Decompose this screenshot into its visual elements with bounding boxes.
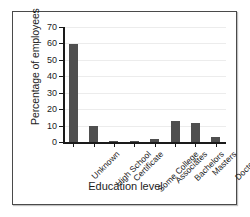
y-axis-line bbox=[63, 27, 65, 143]
bar[interactable] bbox=[89, 126, 98, 142]
gridline bbox=[63, 93, 226, 94]
bar[interactable] bbox=[69, 44, 78, 142]
y-tick-label: 70 bbox=[47, 22, 57, 32]
y-tick-label: 30 bbox=[47, 88, 57, 98]
bar[interactable] bbox=[171, 121, 180, 142]
gridline bbox=[63, 60, 226, 61]
y-tick-label: 10 bbox=[47, 121, 57, 131]
gridline bbox=[63, 76, 226, 77]
x-axis-line bbox=[63, 142, 226, 144]
y-tick-label: 40 bbox=[47, 71, 57, 81]
plot-inner: 010203040506070 bbox=[63, 27, 226, 143]
y-tick-label: 50 bbox=[47, 55, 57, 65]
y-tick-label: 20 bbox=[47, 104, 57, 114]
chart-screenshot: Percentage of employees 010203040506070 … bbox=[0, 0, 250, 217]
bar[interactable] bbox=[191, 123, 200, 142]
y-tick-label: 0 bbox=[52, 137, 57, 147]
plot-area: 010203040506070 UnknownHigh SchoolCertif… bbox=[63, 27, 226, 143]
gridline bbox=[63, 43, 226, 44]
gridline bbox=[63, 126, 226, 127]
gridline bbox=[63, 109, 226, 110]
figure-frame: Percentage of employees 010203040506070 … bbox=[12, 11, 237, 205]
x-axis-title: Education level bbox=[13, 180, 238, 192]
gridline bbox=[63, 27, 226, 28]
y-tick-label: 60 bbox=[47, 38, 57, 48]
y-axis-title: Percentage of employees bbox=[29, 15, 41, 125]
